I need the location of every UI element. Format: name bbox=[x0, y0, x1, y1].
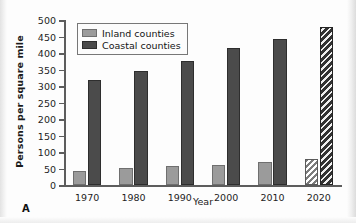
bar-coastal-2020 bbox=[320, 27, 334, 185]
y-tick-label-150: 150 bbox=[22, 130, 56, 141]
y-tick-0 bbox=[59, 185, 64, 186]
legend-item-coastal: Coastal counties bbox=[82, 39, 181, 51]
y-tick-label-300: 300 bbox=[22, 81, 56, 92]
y-tick-label-250: 250 bbox=[22, 97, 56, 108]
bar-coastal-1980 bbox=[134, 71, 148, 186]
y-tick-label-200: 200 bbox=[22, 114, 56, 125]
bar-inland-1970 bbox=[73, 171, 87, 186]
y-tick-label-50: 50 bbox=[22, 163, 56, 174]
y-tick-label-350: 350 bbox=[22, 64, 56, 75]
bar-coastal-1970 bbox=[88, 80, 102, 186]
legend-label-inland: Inland counties bbox=[102, 28, 175, 39]
x-axis-title: Year bbox=[64, 196, 342, 207]
y-tick-label-400: 400 bbox=[22, 48, 56, 59]
bar-group-2010 bbox=[249, 18, 295, 185]
bar-inland-1980 bbox=[119, 168, 133, 185]
bar-inland-2000 bbox=[212, 165, 226, 186]
bar-inland-2020 bbox=[305, 159, 319, 185]
y-tick-label-100: 100 bbox=[22, 147, 56, 158]
y-tick-label-500: 500 bbox=[22, 15, 56, 26]
y-tick-label-0: 0 bbox=[22, 180, 56, 191]
panel-label: A bbox=[22, 203, 30, 214]
bar-group-2000 bbox=[203, 18, 249, 185]
legend-swatch-inland bbox=[82, 29, 97, 37]
bar-coastal-1990 bbox=[181, 61, 195, 186]
x-axis-line bbox=[64, 185, 342, 187]
legend-item-inland: Inland counties bbox=[82, 27, 181, 39]
bar-coastal-2000 bbox=[227, 48, 241, 185]
bar-chart-figure: Persons per square mile 5004504003503002… bbox=[0, 0, 356, 223]
legend-label-coastal: Coastal counties bbox=[102, 40, 181, 51]
y-tick-label-450: 450 bbox=[22, 31, 56, 42]
bar-inland-2010 bbox=[258, 162, 272, 185]
bar-group-2020 bbox=[296, 18, 342, 185]
bar-coastal-2010 bbox=[273, 39, 287, 186]
chart-legend: Inland counties Coastal counties bbox=[77, 23, 188, 55]
legend-swatch-coastal bbox=[82, 41, 97, 49]
bar-inland-1990 bbox=[166, 166, 180, 185]
